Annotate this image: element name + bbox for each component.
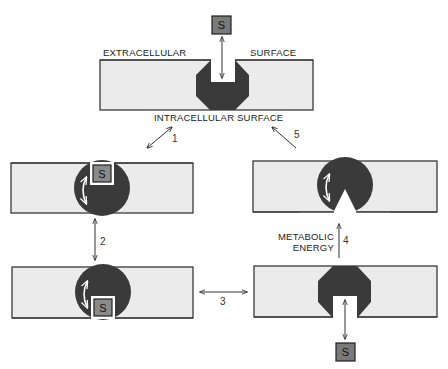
extracellular-label: EXTRACELLULAR [103,47,186,58]
substrate-label: S [218,19,225,31]
panel-mid-left: S [11,160,193,216]
step-1-label: 1 [172,133,178,144]
step-3-label: 3 [220,296,226,307]
step-5-arrow [272,127,296,148]
step-1-arrow [147,127,172,148]
step-2-label: 2 [100,236,106,247]
binding-site [211,59,235,82]
panel-top: S EXTRACELLULAR SURFACE INTRACELLULAR SU… [100,16,313,123]
surface-label: SURFACE [250,47,296,58]
substrate-label: S [342,346,349,358]
intracellular-label: INTRACELLULAR SURFACE [154,112,283,123]
panel-bottom-left: S [12,264,193,320]
transport-cycle-diagram: S EXTRACELLULAR SURFACE INTRACELLULAR SU… [0,0,448,369]
panel-bottom-right: S [254,266,437,361]
energy-label: ENERGY [293,242,335,253]
step-5-label: 5 [294,129,300,140]
metabolic-label: METABOLIC [278,231,334,242]
panel-mid-right [253,157,437,223]
substrate-label: S [98,168,105,180]
step-4-label: 4 [343,235,349,246]
substrate-label: S [99,302,106,314]
